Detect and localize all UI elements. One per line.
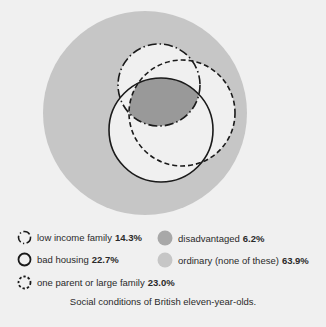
- legend-label: bad housing: [37, 254, 89, 265]
- legend-label: disadvantaged: [178, 233, 240, 244]
- legend-ordinary: ordinary (none of these)63.9%: [157, 252, 309, 268]
- dash-dot-circle-icon: [17, 230, 32, 245]
- venn-diagram: [0, 0, 326, 225]
- legend-low-income: low income family14.3%: [17, 230, 142, 245]
- legend-disadvantaged: disadvantaged6.2%: [157, 230, 264, 246]
- legend-label: one parent or large family: [37, 277, 145, 288]
- legend-label: ordinary (none of these): [178, 255, 279, 266]
- dark-gray-disc-icon: [157, 230, 173, 246]
- legend-value: 23.0%: [148, 277, 175, 288]
- figure-caption: Social conditions of British eleven-year…: [0, 296, 326, 307]
- legend-value: 63.9%: [282, 255, 309, 266]
- legend-bad-housing: bad housing22.7%: [17, 252, 119, 267]
- legend-label: low income family: [37, 232, 112, 243]
- dashed-circle-icon: [17, 275, 32, 290]
- legend-value: 22.7%: [92, 254, 119, 265]
- legend-value: 6.2%: [243, 233, 265, 244]
- light-gray-disc-icon: [157, 252, 173, 268]
- legend-value: 14.3%: [115, 232, 142, 243]
- legend-one-parent: one parent or large family23.0%: [17, 275, 175, 290]
- solid-circle-icon: [17, 252, 32, 267]
